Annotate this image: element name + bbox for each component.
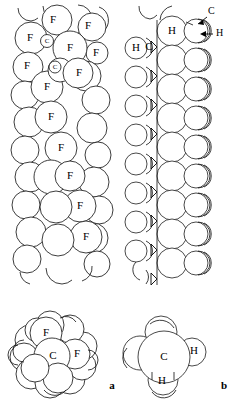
atom-label-f: F	[85, 19, 91, 31]
panel-letter-a: a	[109, 379, 115, 391]
pe-sphere-h-front	[157, 248, 187, 278]
ptfe-sphere-f	[13, 245, 41, 273]
pe-sphere-h-right	[184, 193, 208, 217]
ptfe-sphere-f	[12, 191, 40, 219]
pe-sphere-h-right	[184, 164, 208, 188]
pe-repeat-units	[125, 16, 211, 285]
ptfe-partial-sphere-bottom-left	[20, 272, 30, 284]
atom-label-c: C	[49, 349, 56, 361]
pe-carbon-wedge	[151, 273, 157, 285]
atom-label-f: F	[77, 199, 83, 211]
atom-label-h: H	[158, 374, 166, 386]
ptfe-sphere-f	[85, 142, 111, 168]
atom-label-f: F	[43, 326, 49, 338]
ptfe-sphere-f	[82, 86, 110, 114]
pe-sphere-h-left	[125, 240, 147, 262]
atom-label-f: F	[27, 31, 33, 43]
ptfe-sphere-f-labeled	[42, 5, 72, 35]
pe-sphere-h-right	[184, 222, 208, 246]
panel-letter-b: b	[221, 379, 227, 391]
pe-sphere-h-right	[184, 48, 208, 72]
atom-label-f: F	[58, 141, 64, 153]
annotation-label-h: H	[216, 27, 223, 38]
ptfe-sphere-f-labeled	[42, 224, 74, 256]
atom-label-c: C	[145, 40, 152, 52]
pe-sphere-h-left	[125, 95, 147, 117]
pe-sphere-h-right	[184, 106, 208, 130]
atom-label-f: F	[50, 13, 56, 25]
pe-arc-left-bottom	[146, 270, 149, 284]
atom-label-h: H	[190, 344, 198, 356]
atom-label-f: F	[24, 59, 30, 71]
atom-label-f: F	[76, 66, 82, 78]
panel-a-end-view-ptfe: F C F a	[8, 311, 115, 398]
panel-a-chain-ptfe: F F F F F F F F F F F F F C C	[11, 5, 113, 284]
atom-label-f: F	[44, 80, 50, 92]
atom-label-c: C	[160, 350, 167, 362]
ptfe-partial-sphere-top-left	[18, 8, 38, 21]
pe-sphere-h-front	[157, 132, 187, 162]
ptfe-sphere-f	[77, 113, 107, 143]
molecular-model-figure: F F F F F F F F F F F F F C C	[0, 0, 237, 405]
atom-label-c: C	[45, 37, 50, 45]
atom-label-f: F	[67, 41, 73, 53]
annotation-label-c: C	[208, 5, 215, 16]
pe-sphere-h-right	[184, 251, 208, 275]
atom-label-h: H	[132, 41, 140, 53]
atom-label-f: F	[83, 230, 89, 242]
atom-label-f: F	[93, 46, 99, 58]
pe-sphere-h-right	[184, 135, 208, 159]
pe-sphere-h-right	[184, 77, 208, 101]
panel-b-end-view-polyethylene: C H H b	[123, 316, 227, 398]
atom-label-f: F	[74, 347, 80, 359]
pe-partial-sphere-bottom-left	[133, 262, 140, 280]
pe-sphere-h-front	[157, 219, 187, 249]
atom-label-f: F	[67, 169, 73, 181]
pe-sphere-h-front	[157, 190, 187, 220]
ptfe-partial-sphere-bottom-mid	[46, 268, 72, 284]
pe-sphere-h-left	[125, 153, 147, 175]
ptfe-sphere-f	[11, 136, 39, 164]
pe-sphere-h-front	[157, 45, 187, 75]
atom-label-h: H	[168, 24, 176, 36]
pe-sphere-h-left	[125, 66, 147, 88]
pe-sphere-h-front	[157, 103, 187, 133]
pe-sphere-h-front	[157, 74, 187, 104]
pe-partial-sphere-top-left	[139, 6, 157, 19]
pe-sphere-h-left	[125, 211, 147, 233]
pe-sphere-h-left	[125, 182, 147, 204]
pe-sphere-h-front	[157, 161, 187, 191]
panel-b-chain-polyethylene: H H C C H	[125, 5, 223, 285]
ptfe-sphere-f-labeled	[40, 191, 72, 223]
ptfe-end-sphere	[21, 354, 49, 382]
atom-label-c: C	[53, 63, 58, 71]
ptfe-sphere-f	[84, 251, 110, 277]
atom-label-f: F	[48, 110, 54, 122]
figure-container: F F F F F F F F F F F F F C C	[0, 0, 237, 405]
pe-sphere-h-left	[125, 124, 147, 146]
ptfe-sphere-f	[16, 217, 46, 247]
